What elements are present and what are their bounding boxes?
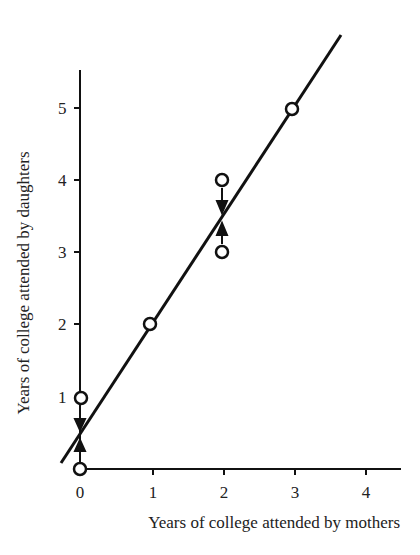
x-tick-label: 0 bbox=[76, 483, 85, 502]
data-point bbox=[216, 246, 228, 258]
y-tick-label: 3 bbox=[58, 243, 67, 262]
y-tick-label: 1 bbox=[58, 388, 67, 407]
data-point bbox=[286, 103, 298, 115]
regression-line bbox=[61, 35, 341, 463]
data-points bbox=[74, 103, 298, 475]
y-tick-label: 5 bbox=[58, 99, 67, 118]
x-tick-label: 4 bbox=[362, 483, 371, 502]
x-axis-title: Years of college attended by mothers bbox=[148, 513, 400, 532]
data-point bbox=[216, 174, 228, 186]
y-tick-label: 2 bbox=[58, 315, 67, 334]
data-point bbox=[75, 392, 87, 404]
x-tick-label: 2 bbox=[220, 483, 229, 502]
y-axis-title: Years of college attended by daughters bbox=[14, 151, 33, 414]
x-tick-label: 3 bbox=[291, 483, 300, 502]
x-tick-label: 1 bbox=[149, 483, 158, 502]
data-point bbox=[144, 318, 156, 330]
y-tick-label: 4 bbox=[58, 171, 67, 190]
scatter-plot: 5 4 3 2 1 0 1 2 3 4 Years of college att… bbox=[0, 0, 420, 555]
data-point bbox=[74, 463, 86, 475]
